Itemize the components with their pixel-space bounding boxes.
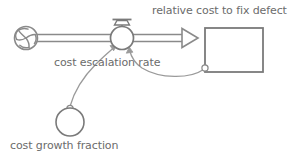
valve-handle-cap-icon xyxy=(115,21,130,26)
stock-label: relative cost to fix defect xyxy=(152,4,287,17)
auxiliary-label: cost growth fraction xyxy=(10,139,118,152)
diagram-canvas xyxy=(0,0,301,160)
stock-and-flow-diagram: relative cost to fix defect cost escalat… xyxy=(0,0,301,160)
link-origin-marker-stock xyxy=(202,65,208,71)
flow-arrowhead-icon xyxy=(182,29,198,48)
cloud-source-icon[interactable] xyxy=(15,27,38,50)
stock-box-icon[interactable] xyxy=(205,28,263,72)
flow-label: cost escalation rate xyxy=(54,56,160,69)
valve-icon[interactable] xyxy=(111,20,134,50)
auxiliary-variable-icon[interactable] xyxy=(56,108,84,136)
